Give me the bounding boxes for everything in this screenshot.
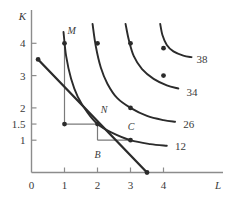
y-tick-label-1.5: 1.5 xyxy=(12,118,26,130)
data-point-34 xyxy=(128,41,133,46)
curve-label-34: 34 xyxy=(187,86,199,98)
x-tick-label-1: 1 xyxy=(62,179,68,191)
y-tick-label-2: 2 xyxy=(20,102,26,114)
point-label-M: M xyxy=(67,25,77,36)
data-point-38 xyxy=(161,46,166,51)
data-point-12 xyxy=(95,122,100,127)
curve-label-26: 26 xyxy=(183,118,195,130)
point-label-C: C xyxy=(128,121,135,132)
data-point-26 xyxy=(128,106,133,111)
x-tick-label-0: 0 xyxy=(29,179,35,191)
chart-background xyxy=(0,0,233,199)
point-label-N: N xyxy=(100,104,109,115)
x-tick-label-4: 4 xyxy=(161,179,167,191)
y-axis-title: K xyxy=(18,10,27,22)
x-tick-label-2: 2 xyxy=(95,179,101,191)
isoquant-isocost-chart: 0123411.5234 MNBC 12263438 KL xyxy=(0,0,233,199)
x-tick-label-3: 3 xyxy=(128,179,134,191)
x-axis-title: L xyxy=(214,179,221,191)
y-tick-label-4: 4 xyxy=(20,37,26,49)
data-point-budget-line xyxy=(145,170,150,175)
curve-label-12: 12 xyxy=(175,140,186,152)
y-tick-label-1: 1 xyxy=(20,134,26,146)
y-tick-label-3: 3 xyxy=(20,70,26,82)
data-point-12 xyxy=(62,41,67,46)
data-point-budget-line xyxy=(36,57,41,62)
data-point-12 xyxy=(128,138,133,143)
data-point-26 xyxy=(95,41,100,46)
chart-svg: 0123411.5234 MNBC 12263438 KL xyxy=(0,0,233,199)
data-point-34 xyxy=(161,73,166,78)
point-label-B: B xyxy=(94,149,100,160)
curve-label-38: 38 xyxy=(197,53,209,65)
guide-point-M-corner xyxy=(62,122,67,127)
